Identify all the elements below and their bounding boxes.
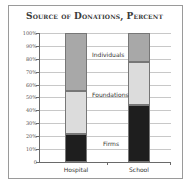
series-label-foundations: Foundations xyxy=(92,91,129,98)
y-tick-label: 60% xyxy=(7,82,37,88)
x-tick xyxy=(170,162,171,165)
y-tick-label: 100% xyxy=(7,30,37,36)
y-tick-label: 50% xyxy=(7,94,37,100)
y-tick-label: 20% xyxy=(7,133,37,139)
x-axis xyxy=(39,162,171,163)
x-label-hospital: Hospital xyxy=(56,166,96,173)
bar-segment-foundations xyxy=(65,91,87,134)
gridline xyxy=(39,136,171,137)
series-label-individuals: Individuals xyxy=(92,51,124,58)
y-tick-label: 70% xyxy=(7,69,37,75)
bar-segment-individuals xyxy=(65,33,87,91)
y-axis xyxy=(39,33,40,163)
bar-hospital xyxy=(65,33,87,162)
y-tick-label: 0 xyxy=(7,159,37,165)
y-tick-label: 80% xyxy=(7,56,37,62)
plot-area: Individuals Foundations Firms xyxy=(39,33,171,162)
x-label-school: School xyxy=(119,166,159,173)
bar-segment-firms xyxy=(128,105,150,162)
gridline xyxy=(39,110,171,111)
gridline xyxy=(39,33,171,34)
x-tick xyxy=(107,162,108,165)
y-tick-label: 90% xyxy=(7,43,37,49)
bar-segment-foundations xyxy=(128,62,150,105)
gridline xyxy=(39,46,171,47)
bar-segment-firms xyxy=(65,134,87,162)
gridline xyxy=(39,85,171,86)
y-tick-label: 30% xyxy=(7,120,37,126)
series-label-firms: Firms xyxy=(103,140,119,147)
bar-school xyxy=(128,33,150,162)
y-tick-label: 40% xyxy=(7,107,37,113)
gridline xyxy=(39,59,171,60)
gridline xyxy=(39,123,171,124)
gridline xyxy=(39,149,171,150)
gridline xyxy=(39,72,171,73)
y-tick-label: 10% xyxy=(7,146,37,152)
chart-title: Source of Donations, Percent xyxy=(0,11,189,21)
bar-segment-individuals xyxy=(128,33,150,62)
